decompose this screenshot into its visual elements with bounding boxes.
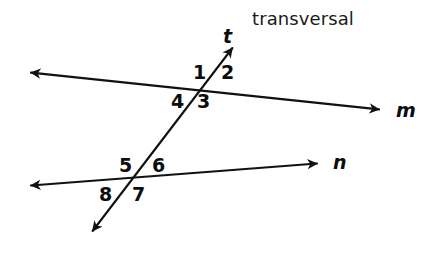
line-t-transversal — [93, 48, 233, 231]
line-label-n: n — [333, 153, 347, 172]
figure-canvas — [0, 0, 430, 255]
line-label-m: m — [396, 101, 416, 120]
angle-label-6: 6 — [152, 156, 165, 175]
angle-label-2: 2 — [221, 63, 234, 82]
line-n — [31, 164, 317, 186]
geometry-figure: transversal t m n 1 2 3 4 5 6 7 8 — [0, 0, 430, 255]
angle-label-3: 3 — [197, 92, 210, 111]
angle-label-8: 8 — [99, 185, 112, 204]
angle-label-4: 4 — [171, 92, 184, 111]
line-label-t: t — [223, 27, 232, 46]
angle-label-7: 7 — [132, 185, 145, 204]
angle-label-1: 1 — [193, 63, 206, 82]
angle-label-5: 5 — [119, 156, 132, 175]
transversal-caption: transversal — [252, 10, 354, 28]
